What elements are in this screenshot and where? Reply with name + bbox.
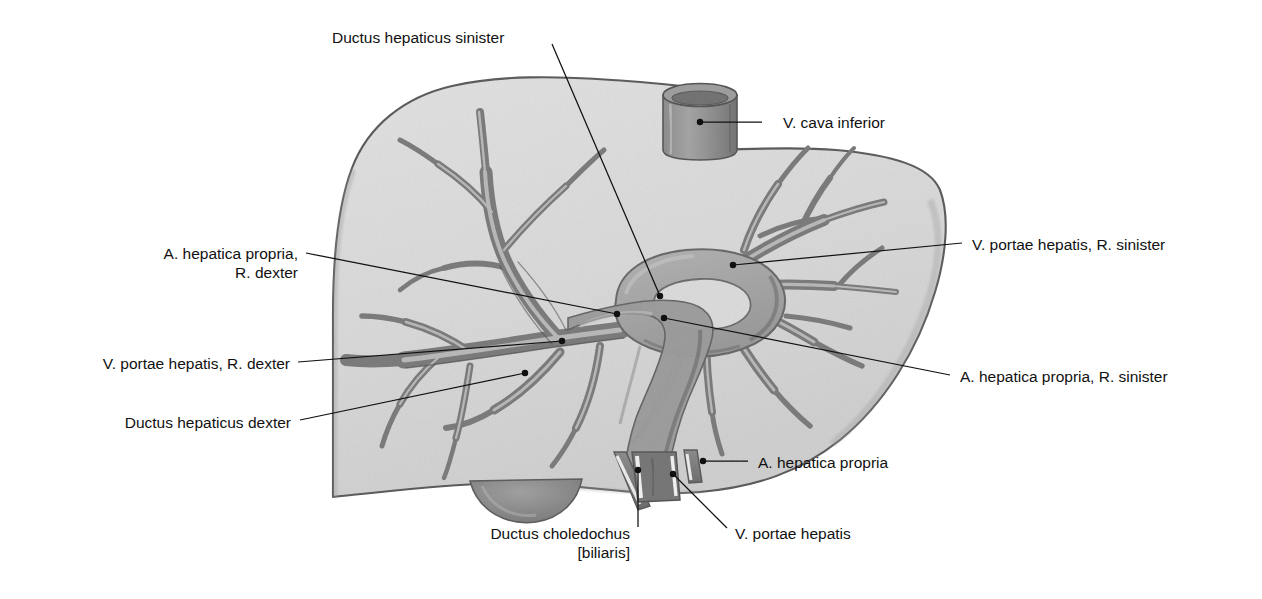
leader-dot-a-hepatica-propria-r-dexter <box>614 311 619 316</box>
leader-dot-ductus-choledochus-biliaris <box>635 467 640 472</box>
label-line: A. hepatica propria <box>758 453 888 472</box>
label-a-hepatica-propria: A. hepatica propria <box>758 453 888 472</box>
leader-dot-v-portae-hepatis-r-sinister <box>730 262 735 267</box>
label-a-hepatica-propria-r-sinister: A. hepatica propria, R. sinister <box>960 367 1168 386</box>
label-line: V. portae hepatis, R. sinister <box>972 235 1165 254</box>
leader-dot-a-hepatica-propria <box>700 458 705 463</box>
label-line: V. cava inferior <box>783 113 885 132</box>
label-v-cava-inferior: V. cava inferior <box>783 113 885 132</box>
label-line: Ductus hepaticus dexter <box>101 413 291 432</box>
leader-dot-v-cava-inferior <box>697 119 702 124</box>
label-line: A. hepatica propria, <box>138 244 298 263</box>
label-line: Ductus hepaticus sinister <box>332 28 504 47</box>
label-v-portae-hepatis-r-sinister: V. portae hepatis, R. sinister <box>972 235 1165 254</box>
label-a-hepatica-propria-r-dexter: A. hepatica propria,R. dexter <box>138 244 298 282</box>
label-line: A. hepatica propria, R. sinister <box>960 367 1168 386</box>
label-v-portae-hepatis-r-dexter: V. portae hepatis, R. dexter <box>68 354 290 373</box>
leader-dot-v-portae-hepatis-r-dexter <box>559 338 564 343</box>
label-line: V. portae hepatis, R. dexter <box>68 354 290 373</box>
label-line: V. portae hepatis <box>735 524 851 543</box>
label-line: Ductus choledochus <box>470 524 630 543</box>
leader-dot-v-portae-hepatis <box>670 471 675 476</box>
label-v-portae-hepatis: V. portae hepatis <box>735 524 851 543</box>
label-ductus-hepaticus-sinister: Ductus hepaticus sinister <box>332 28 504 47</box>
gallbladder <box>470 479 582 523</box>
leader-dot-a-hepatica-propria-r-sinister <box>661 315 666 320</box>
figure-canvas: Ductus hepaticus sinisterV. cava inferio… <box>0 0 1262 599</box>
liver-anatomy-illustration <box>0 0 1262 599</box>
label-line: [biliaris] <box>470 543 630 562</box>
leader-dot-ductus-hepaticus-sinister <box>657 293 662 298</box>
label-ductus-choledochus-biliaris: Ductus choledochus[biliaris] <box>470 524 630 562</box>
leader-dot-ductus-hepaticus-dexter <box>522 370 527 375</box>
label-line: R. dexter <box>138 263 298 282</box>
label-ductus-hepaticus-dexter: Ductus hepaticus dexter <box>101 413 291 432</box>
